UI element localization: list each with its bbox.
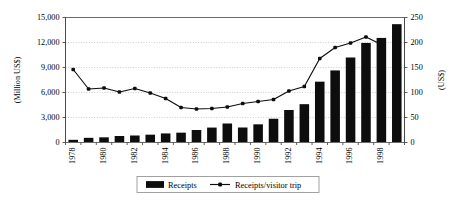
chart-container: 03,0006,0009,00012,00015,000 05010015020… bbox=[0, 0, 460, 210]
left-tick-label-12000: 12,000 bbox=[37, 38, 60, 47]
x-tick-label-1982: 1982 bbox=[130, 148, 139, 164]
data-point-1983 bbox=[148, 91, 152, 95]
bar-1996 bbox=[346, 58, 356, 143]
data-point-1978 bbox=[71, 68, 75, 72]
right-axis-group: 050100150200250 bbox=[405, 13, 423, 147]
bar-1984 bbox=[161, 133, 171, 142]
bar-1988 bbox=[223, 124, 233, 143]
x-tick-label-1986: 1986 bbox=[191, 148, 200, 164]
bar-1995 bbox=[330, 70, 340, 142]
left-tick-label-3000: 3,000 bbox=[41, 113, 59, 122]
x-tick-label-1996: 1996 bbox=[345, 148, 354, 164]
bar-1990 bbox=[253, 124, 263, 142]
data-point-1984 bbox=[164, 97, 168, 101]
legend-swatch-receipts bbox=[146, 181, 164, 188]
x-axis-group: 1978198019821984198619881990199219941996… bbox=[66, 143, 405, 164]
legend-label-receipts-per-visitor-trip: Receipts/visitor trip bbox=[235, 181, 301, 190]
data-point-1994 bbox=[318, 57, 322, 61]
left-axis-group: 03,0006,0009,00012,00015,000 bbox=[37, 13, 66, 147]
x-tick-label-1978: 1978 bbox=[68, 148, 77, 164]
data-point-1990 bbox=[256, 100, 260, 104]
data-point-1981 bbox=[118, 90, 122, 94]
bar-1994 bbox=[315, 82, 325, 143]
bar-1999 bbox=[392, 24, 402, 142]
right-tick-label-0: 0 bbox=[411, 138, 415, 147]
bar-1980 bbox=[99, 137, 109, 142]
bar-1992 bbox=[284, 110, 294, 143]
data-point-1980 bbox=[102, 86, 106, 90]
bar-1982 bbox=[130, 136, 140, 143]
data-point-1991 bbox=[272, 98, 276, 102]
x-tick-label-1998: 1998 bbox=[376, 148, 385, 164]
data-point-1985 bbox=[179, 106, 183, 110]
chart-canvas: 03,0006,0009,00012,00015,000 05010015020… bbox=[0, 0, 460, 210]
data-point-1996 bbox=[349, 41, 353, 45]
legend: ReceiptsReceipts/visitor trip bbox=[137, 177, 319, 193]
bar-1991 bbox=[269, 119, 279, 143]
data-point-1987 bbox=[210, 107, 214, 111]
left-tick-label-0: 0 bbox=[55, 138, 59, 147]
data-point-1992 bbox=[287, 89, 291, 93]
legend-label-receipts: Receipts bbox=[168, 181, 197, 190]
data-point-1982 bbox=[133, 87, 137, 91]
right-tick-label-50: 50 bbox=[411, 113, 419, 122]
bar-1997 bbox=[361, 43, 371, 143]
bar-1981 bbox=[115, 136, 125, 143]
right-tick-label-100: 100 bbox=[411, 88, 423, 97]
data-point-1993 bbox=[303, 85, 307, 89]
data-point-1986 bbox=[195, 107, 199, 111]
x-tick-label-1994: 1994 bbox=[315, 148, 324, 164]
right-tick-label-200: 200 bbox=[411, 38, 423, 47]
left-tick-label-9000: 9,000 bbox=[41, 63, 59, 72]
data-point-1995 bbox=[333, 46, 337, 50]
bar-1985 bbox=[176, 133, 186, 143]
x-tick-label-1980: 1980 bbox=[99, 148, 108, 164]
legend-marker-receipts-per-visitor-trip bbox=[218, 183, 222, 187]
x-tick-label-1984: 1984 bbox=[161, 148, 170, 164]
right-tick-label-150: 150 bbox=[411, 63, 423, 72]
x-tick-label-1992: 1992 bbox=[284, 148, 293, 164]
data-point-1979 bbox=[87, 87, 91, 91]
right-axis-title: (US$) bbox=[437, 70, 446, 90]
left-axis-title: (Million US$) bbox=[13, 56, 22, 103]
left-tick-label-6000: 6,000 bbox=[41, 88, 59, 97]
data-point-1998 bbox=[380, 43, 384, 47]
bar-1979 bbox=[84, 138, 94, 143]
bar-1983 bbox=[145, 135, 155, 143]
bar-1989 bbox=[238, 128, 248, 143]
x-tick-label-1988: 1988 bbox=[222, 148, 231, 164]
data-point-1989 bbox=[241, 102, 245, 106]
bar-1993 bbox=[300, 104, 310, 142]
right-tick-label-250: 250 bbox=[411, 13, 423, 22]
x-tick-label-1990: 1990 bbox=[253, 148, 262, 164]
bar-1998 bbox=[377, 38, 387, 143]
bar-1987 bbox=[207, 128, 217, 143]
bar-1986 bbox=[192, 130, 202, 143]
data-point-1988 bbox=[226, 105, 230, 109]
left-tick-label-15000: 15,000 bbox=[37, 13, 60, 22]
data-point-1997 bbox=[364, 35, 368, 39]
